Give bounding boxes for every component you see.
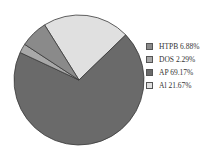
legend-item-ap: AP 69.17% — [146, 66, 199, 79]
legend-item-htpb: HTPB 6.88% — [146, 40, 199, 53]
legend-swatch-htpb — [146, 43, 153, 50]
legend-swatch-al — [146, 82, 153, 89]
legend-label: Al 21.67% — [159, 81, 192, 90]
legend-swatch-ap — [146, 69, 153, 76]
pie-chart — [0, 0, 150, 157]
legend: HTPB 6.88% DOS 2.29% AP 69.17% Al 21.67% — [146, 40, 199, 92]
legend-label: AP 69.17% — [159, 68, 193, 77]
legend-swatch-dos — [146, 56, 153, 63]
legend-label: HTPB 6.88% — [159, 42, 199, 51]
legend-label: DOS 2.29% — [159, 55, 195, 64]
legend-item-dos: DOS 2.29% — [146, 53, 199, 66]
legend-item-al: Al 21.67% — [146, 79, 199, 92]
